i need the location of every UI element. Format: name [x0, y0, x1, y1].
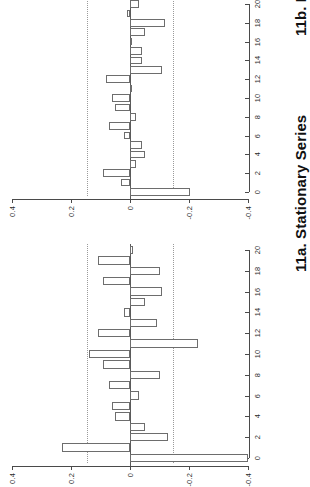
acf-bar [112, 94, 130, 102]
acf-bar [109, 381, 130, 389]
value-axis-tick [248, 199, 249, 203]
acf-bar [89, 350, 130, 358]
lag-axis-tick [245, 250, 249, 251]
lag-axis-tick [245, 271, 249, 272]
acf-bar [103, 360, 130, 368]
acf-bar [130, 47, 142, 55]
acf-bar [130, 319, 157, 327]
acf-bar [130, 57, 142, 65]
acf-bar [130, 287, 162, 295]
lag-axis-tick-label: 14 [253, 56, 262, 65]
acf-bar [130, 246, 133, 254]
acf-bar [115, 412, 130, 420]
lag-axis-line [249, 250, 250, 458]
lag-axis-tick-label: 20 [253, 246, 262, 255]
value-axis-tick [130, 466, 131, 470]
lag-axis-tick-label: 2 [253, 171, 262, 175]
acf-bar [130, 188, 190, 196]
acf-bar [127, 10, 130, 18]
acf-bar [124, 308, 130, 316]
value-axis-tick-label: -0.2 [185, 206, 194, 220]
value-axis-tick-label: 0 [126, 206, 135, 210]
panel-stationary-series: 0.40.20-0.2-0.402468101214161820 11a. St… [0, 246, 304, 484]
lag-axis-tick [245, 79, 249, 80]
lag-axis-tick [245, 4, 249, 5]
acf-bar [62, 443, 130, 451]
acf-bar [130, 0, 139, 8]
value-axis-tick-label: -0.4 [244, 206, 253, 220]
lag-axis-tick-label: 20 [253, 0, 262, 8]
acf-bar [130, 66, 162, 74]
lag-axis-tick-label: 14 [253, 308, 262, 317]
value-axis-tick [71, 466, 72, 470]
lag-axis-tick-label: 10 [253, 350, 262, 359]
lag-axis-tick-label: 16 [253, 37, 262, 46]
lag-axis-tick [245, 292, 249, 293]
acf-bar [103, 277, 130, 285]
value-axis-tick-label: 0.4 [8, 473, 17, 484]
acf-bar [115, 104, 130, 112]
value-axis-tick [71, 199, 72, 203]
value-axis-tick-label: 0 [126, 473, 135, 477]
value-axis-tick [130, 199, 131, 203]
acf-bar [130, 371, 160, 379]
confidence-bound-line [173, 0, 174, 196]
lag-axis-tick [245, 416, 249, 417]
acf-bar [130, 267, 160, 275]
acf-bar [130, 423, 145, 431]
acf-bar [121, 179, 130, 187]
acf-bar [98, 329, 130, 337]
lag-axis-tick-label: 12 [253, 329, 262, 338]
acf-bar [106, 75, 130, 83]
lag-axis-tick-label: 6 [253, 393, 262, 397]
acf-bar [130, 298, 145, 306]
lag-axis-tick [245, 375, 249, 376]
panel-model-residuals: 0.40.20-0.2-0.402468101214161820 11b. Mo… [0, 0, 304, 220]
acf-bar [130, 85, 132, 93]
acf-bar [130, 339, 198, 347]
lag-axis-line [249, 4, 250, 192]
lag-axis-tick-label: 18 [253, 18, 262, 27]
acf-bar [130, 28, 145, 36]
lag-axis-tick [245, 396, 249, 397]
confidence-bound-line [87, 0, 88, 196]
lag-axis-tick-label: 12 [253, 75, 262, 84]
acf-bar [124, 132, 130, 140]
value-axis-tick-label: 0.2 [67, 206, 76, 217]
acf-bar [130, 391, 139, 399]
value-axis-tick [12, 466, 13, 470]
lag-axis-tick-label: 16 [253, 287, 262, 296]
value-axis-tick [189, 466, 190, 470]
acf-bar [98, 256, 130, 264]
plot-area-model-residuals: 0.40.20-0.2-0.402468101214161820 [0, 0, 304, 220]
value-axis-tick-label: -0.4 [244, 473, 253, 487]
value-axis-tick [189, 199, 190, 203]
lag-axis-tick [245, 192, 249, 193]
lag-axis-tick [245, 437, 249, 438]
value-axis-tick-label: 0.4 [8, 206, 17, 217]
acf-bar [130, 113, 136, 121]
lag-axis-tick [245, 354, 249, 355]
lag-axis-tick-label: 4 [253, 152, 262, 156]
acf-bar [130, 141, 142, 149]
lag-axis-tick [245, 333, 249, 334]
lag-axis-tick-label: 6 [253, 133, 262, 137]
lag-axis-tick [245, 173, 249, 174]
value-axis-tick [12, 199, 13, 203]
lag-axis-tick [245, 136, 249, 137]
value-axis-tick-label: -0.2 [185, 473, 194, 487]
panel-caption-model-residuals: 11b. Model Residuals [292, 0, 309, 36]
acf-bar [130, 38, 132, 46]
acf-bar [109, 122, 130, 130]
lag-axis-tick [245, 23, 249, 24]
lag-axis-tick [245, 117, 249, 118]
lag-axis-tick [245, 312, 249, 313]
acf-bar [103, 169, 130, 177]
acf-bar [112, 402, 130, 410]
acf-bar [130, 433, 168, 441]
acf-bar [130, 19, 165, 27]
plot-area-stationary-series: 0.40.20-0.2-0.402468101214161820 [0, 246, 304, 484]
lag-axis-tick-label: 2 [253, 435, 262, 439]
lag-axis-tick-label: 0 [253, 456, 262, 460]
